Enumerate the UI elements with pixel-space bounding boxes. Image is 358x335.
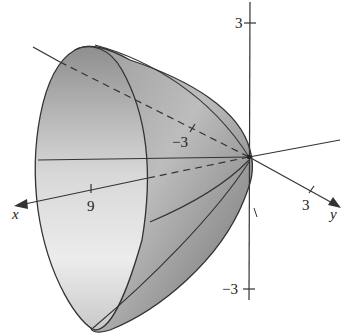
x-axis-label: x [12,207,19,222]
y-axis-label: y [330,207,337,222]
z-axis-minor-mark [254,208,257,217]
y-tick-label-3: 3 [302,198,310,213]
paraboloid-diagram [0,0,358,335]
y-tick-label-neg3: −3 [172,135,188,150]
z-axis [249,2,250,300]
x-axis-negative-segment [33,47,60,62]
y-axis [249,157,336,205]
y-axis-back-segment [249,140,340,157]
origin-vertex [247,155,251,159]
z-tick-label-neg3: −3 [222,282,238,297]
x-tick-label-9: 9 [87,199,95,214]
z-tick-label-3: 3 [235,16,243,31]
